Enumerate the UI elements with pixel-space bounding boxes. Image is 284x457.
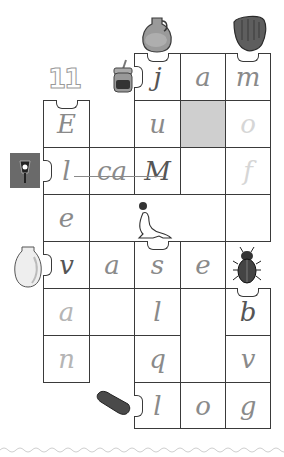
street-lamp-icon <box>10 153 40 188</box>
cell-r2c2[interactable]: M <box>134 147 181 195</box>
cell-r6c2[interactable]: q <box>134 335 181 383</box>
cell-letter: v <box>44 242 89 288</box>
cell-r2c1[interactable]: ca <box>89 147 135 195</box>
cell-letter: a <box>90 242 134 288</box>
cell-letter: E <box>44 101 89 147</box>
cell-r5c3-merged[interactable] <box>180 288 226 383</box>
puzzle-number-label: 11 <box>48 64 80 94</box>
cell-letter: n <box>44 336 89 382</box>
cell-letter: o <box>181 383 225 428</box>
cell-letter: m <box>226 54 270 100</box>
strikethrough-line <box>74 176 164 177</box>
cell-r5c2[interactable]: l <box>134 288 181 336</box>
cell-r7c2[interactable]: l <box>134 382 181 429</box>
cell-letter: a <box>44 289 89 335</box>
cell-letter: v <box>226 336 270 382</box>
cell-r5c1[interactable] <box>89 288 135 336</box>
cell-r3-seal-merged <box>89 194 226 242</box>
eraser-icon <box>94 390 132 416</box>
cell-r6c0[interactable]: n <box>43 335 90 383</box>
cell-r1c0[interactable]: E <box>43 100 90 148</box>
cell-r4c0[interactable]: v <box>43 241 90 289</box>
wavy-divider <box>0 444 284 456</box>
cell-r0c3[interactable]: a <box>180 53 226 101</box>
cell-r7c4[interactable]: g <box>225 382 271 429</box>
cell-letter: o <box>226 101 270 147</box>
cell-r2c0[interactable]: l <box>43 147 90 195</box>
cell-letter: q <box>135 336 180 382</box>
vase-icon <box>14 245 42 289</box>
cell-r0c2[interactable]: j <box>134 53 181 101</box>
cell-letter: l <box>135 383 180 428</box>
seal-with-ball-icon <box>133 201 173 241</box>
cell-r5c4[interactable]: b <box>225 288 271 336</box>
cell-letter: e <box>44 195 89 241</box>
cell-letter: l <box>44 148 89 194</box>
cell-r7c3[interactable]: o <box>180 382 226 429</box>
cell-r3c0[interactable]: e <box>43 194 90 242</box>
cell-letter: f <box>226 148 270 194</box>
cell-letter: b <box>226 289 270 335</box>
cell-r2c4[interactable]: f <box>225 147 271 195</box>
cell-r3c4[interactable] <box>225 194 271 242</box>
cell-letter: M <box>135 148 180 194</box>
cell-letter: l <box>135 289 180 335</box>
cell-letter: j <box>135 54 180 100</box>
cell-r0c4[interactable]: m <box>225 53 271 101</box>
jam-jar-icon <box>112 58 134 94</box>
cell-r1c4[interactable]: o <box>225 100 271 148</box>
cell-letter: g <box>226 383 270 428</box>
cell-letter: ca <box>90 148 134 194</box>
cell-letter: e <box>181 242 225 288</box>
cell-r4c2[interactable]: s <box>134 241 181 289</box>
cell-letter: u <box>135 101 180 147</box>
cell-r4c3[interactable]: e <box>180 241 226 289</box>
cell-r1c2[interactable]: u <box>134 100 181 148</box>
cell-r5c0[interactable]: a <box>43 288 90 336</box>
cell-letter: s <box>135 242 180 288</box>
cell-r1c3-blocked <box>180 100 226 148</box>
jug-icon <box>140 16 174 54</box>
baseball-glove-icon <box>230 14 268 52</box>
beetle-icon <box>232 246 262 286</box>
cell-r4c1[interactable]: a <box>89 241 135 289</box>
cell-letter: a <box>181 54 225 100</box>
cell-r2c3[interactable] <box>180 147 226 195</box>
cell-r6c4[interactable]: v <box>225 335 271 383</box>
